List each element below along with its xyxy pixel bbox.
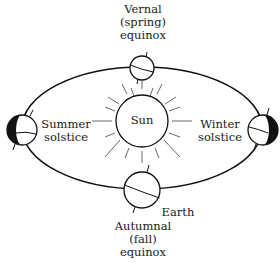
label-line: solstice bbox=[38, 131, 94, 144]
label-line: solstice bbox=[193, 131, 247, 144]
label-line: equinox bbox=[113, 29, 173, 42]
earth-autumnal-icon bbox=[124, 165, 160, 213]
sun-label: Sun bbox=[120, 114, 164, 127]
autumnal-equinox-label: Autumnal (fall) equinox bbox=[108, 220, 178, 259]
earth-summer-icon bbox=[7, 110, 37, 150]
winter-solstice-label: Winter solstice bbox=[193, 118, 247, 144]
earth-label: Earth bbox=[160, 206, 196, 219]
earth-winter-icon bbox=[248, 108, 278, 150]
earth-vernal-icon bbox=[130, 52, 154, 84]
vernal-equinox-label: Vernal (spring) equinox bbox=[113, 3, 173, 42]
summer-solstice-label: Summer solstice bbox=[38, 118, 94, 144]
label-line: equinox bbox=[108, 246, 178, 259]
